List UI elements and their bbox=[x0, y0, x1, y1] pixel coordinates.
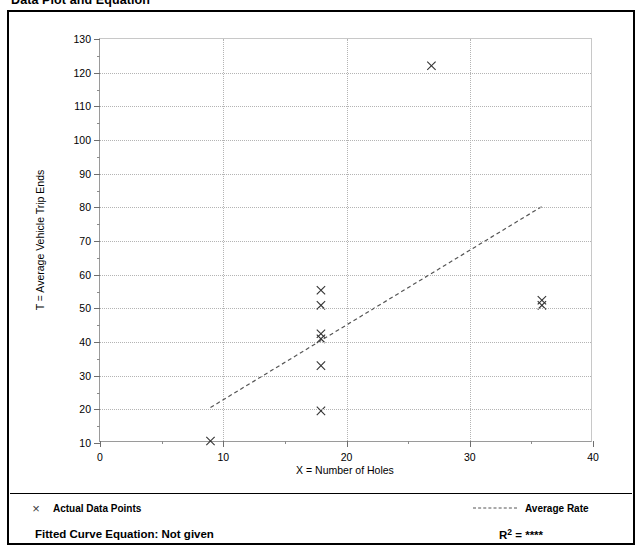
data-point-marker bbox=[317, 361, 325, 369]
x-marker-icon: × bbox=[32, 502, 40, 515]
y-axis-tick bbox=[94, 207, 100, 208]
data-point-marker bbox=[317, 407, 325, 415]
y-axis-minor-tick bbox=[97, 393, 100, 394]
y-axis-minor-tick bbox=[97, 157, 100, 158]
chart-legend: × Actual Data Points Average Rate bbox=[9, 493, 633, 523]
y-axis-title: T = Average Vehicle Trip Ends bbox=[34, 170, 46, 311]
fitted-curve-equation: Fitted Curve Equation: Not given bbox=[35, 528, 214, 540]
y-axis-tick bbox=[94, 174, 100, 175]
x-axis-minor-tick bbox=[162, 441, 163, 444]
x-axis-tick bbox=[593, 441, 594, 447]
data-point-marker bbox=[538, 301, 546, 309]
y-axis-tick bbox=[94, 73, 100, 74]
data-point-marker bbox=[317, 330, 325, 338]
x-axis-tick bbox=[470, 441, 471, 447]
page-title: Data Plot and Equation bbox=[11, 0, 150, 7]
y-axis-tick-label: 30 bbox=[79, 370, 91, 382]
chart-area: T = Average Vehicle Trip Ends X = Number… bbox=[9, 12, 633, 492]
y-axis-tick-label: 120 bbox=[73, 67, 91, 79]
y-axis-tick-label: 110 bbox=[74, 100, 91, 112]
x-axis-tick bbox=[100, 441, 101, 447]
data-point-marker bbox=[317, 286, 325, 294]
y-axis-tick-label: 70 bbox=[79, 235, 91, 247]
data-point-marker bbox=[538, 296, 546, 304]
y-axis-tick-label: 10 bbox=[79, 437, 91, 449]
x-axis-title: X = Number of Holes bbox=[296, 464, 394, 476]
r2-number: = **** bbox=[512, 529, 543, 541]
data-point-marker bbox=[206, 437, 214, 445]
y-axis-minor-tick bbox=[97, 426, 100, 427]
y-axis-tick bbox=[94, 342, 100, 343]
y-axis-tick bbox=[94, 275, 100, 276]
legend-item-average-rate: Average Rate bbox=[525, 503, 589, 514]
y-axis-tick bbox=[94, 376, 100, 377]
y-axis-minor-tick bbox=[97, 325, 100, 326]
y-axis-tick-label: 50 bbox=[79, 302, 91, 314]
y-axis-tick-label: 80 bbox=[79, 201, 91, 213]
y-axis-minor-tick bbox=[97, 123, 100, 124]
y-axis-minor-tick bbox=[97, 258, 100, 259]
x-axis-tick-label: 30 bbox=[464, 451, 476, 463]
y-axis-minor-tick bbox=[97, 224, 100, 225]
data-point-marker bbox=[317, 301, 325, 309]
y-axis-minor-tick bbox=[97, 56, 100, 57]
y-axis-tick bbox=[94, 39, 100, 40]
y-axis-tick bbox=[94, 106, 100, 107]
data-point-marker bbox=[427, 62, 435, 70]
y-axis-tick bbox=[94, 409, 100, 410]
y-axis-tick-label: 60 bbox=[79, 269, 91, 281]
x-axis-tick-label: 20 bbox=[341, 451, 353, 463]
y-axis-tick bbox=[94, 241, 100, 242]
x-axis-tick bbox=[223, 441, 224, 447]
r-squared-value: R2 = **** bbox=[499, 527, 543, 542]
x-axis-minor-tick bbox=[408, 441, 409, 444]
y-axis-minor-tick bbox=[97, 359, 100, 360]
x-axis-minor-tick bbox=[285, 441, 286, 444]
y-axis-tick bbox=[94, 140, 100, 141]
y-axis-tick-label: 90 bbox=[79, 168, 91, 180]
legend-item-actual-data-points: Actual Data Points bbox=[53, 503, 141, 514]
y-axis-tick-label: 100 bbox=[73, 134, 91, 146]
x-axis-tick-label: 10 bbox=[217, 451, 229, 463]
y-axis-minor-tick bbox=[97, 191, 100, 192]
x-axis-tick bbox=[347, 441, 348, 447]
data-series-layer bbox=[100, 39, 591, 441]
x-axis-minor-tick bbox=[531, 441, 532, 444]
chart-footer: Fitted Curve Equation: Not given R2 = **… bbox=[9, 523, 633, 545]
plot-box: 102030405060708090100110120130010203040 bbox=[99, 38, 592, 442]
dashed-line-icon bbox=[473, 508, 517, 509]
y-axis-tick-label: 40 bbox=[79, 336, 91, 348]
y-axis-tick-label: 20 bbox=[79, 403, 91, 415]
chart-panel: T = Average Vehicle Trip Ends X = Number… bbox=[7, 10, 635, 545]
y-axis-tick bbox=[94, 308, 100, 309]
x-axis-tick-label: 40 bbox=[587, 451, 599, 463]
trend-line-average-rate bbox=[210, 207, 541, 408]
y-axis-minor-tick bbox=[97, 90, 100, 91]
y-axis-tick-label: 130 bbox=[73, 33, 91, 45]
x-axis-tick-label: 0 bbox=[97, 451, 103, 463]
y-axis-minor-tick bbox=[97, 292, 100, 293]
